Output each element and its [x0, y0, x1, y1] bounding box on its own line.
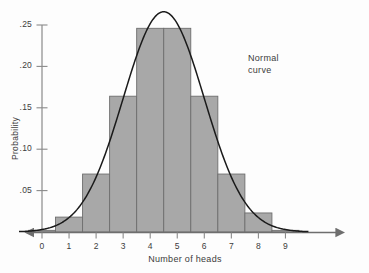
- x-axis-tick-label: 7: [219, 241, 243, 251]
- histogram-bar: [164, 28, 191, 232]
- x-axis-tick-label: 3: [111, 241, 135, 251]
- x-axis-tick-label: 0: [30, 241, 54, 251]
- x-axis-tick-label: 9: [273, 241, 297, 251]
- histogram-bar: [191, 96, 218, 232]
- x-axis-tick-label: 6: [192, 241, 216, 251]
- x-axis-tick-label: 8: [246, 241, 270, 251]
- x-axis-tick-label: 4: [138, 241, 162, 251]
- x-axis-tick-label: 5: [165, 241, 189, 251]
- annotation-line-1: Normal: [248, 52, 279, 64]
- x-axis-tick-label: 1: [57, 241, 81, 251]
- normal-curve-annotation: Normal curve: [248, 52, 279, 76]
- y-axis-tick-label: .15: [6, 102, 32, 112]
- annotation-line-2: curve: [248, 64, 279, 76]
- y-axis-title: Probability: [10, 117, 20, 160]
- histogram-bar: [218, 174, 245, 232]
- y-axis-tick-label: .05: [6, 185, 32, 195]
- x-axis-title: Number of heads: [120, 254, 250, 264]
- histogram-bar: [137, 28, 164, 232]
- histogram-bar: [245, 213, 272, 232]
- histogram-bar: [110, 96, 137, 232]
- y-axis-tick-label: .25: [6, 19, 32, 29]
- y-axis-tick-label: .20: [6, 60, 32, 70]
- binomial-histogram-figure: .05.10.15.20.25 0123456789 Probability N…: [0, 0, 369, 273]
- histogram-bar: [83, 174, 110, 232]
- x-axis-tick-label: 2: [84, 241, 108, 251]
- x-axis-ticks: [42, 233, 285, 239]
- chart-canvas: [0, 0, 369, 273]
